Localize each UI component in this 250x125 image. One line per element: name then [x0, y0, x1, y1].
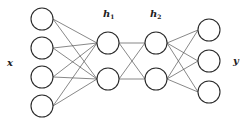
hidden-2-node	[145, 32, 167, 54]
hidden1-label-subscript: 1	[110, 13, 114, 20]
edge	[53, 43, 97, 77]
edge	[53, 19, 97, 79]
edge	[167, 79, 198, 92]
input-node	[31, 95, 53, 117]
edge	[53, 43, 97, 48]
output-node	[198, 50, 220, 72]
input-node	[31, 8, 53, 30]
network-graph	[0, 0, 250, 125]
hidden-1-node	[97, 68, 119, 90]
output-node	[198, 81, 220, 103]
edge	[167, 30, 198, 43]
input-node	[31, 37, 53, 59]
edge	[167, 43, 198, 92]
hidden-layer-1-label: h1	[103, 9, 114, 22]
output-node	[198, 19, 220, 41]
edge	[53, 79, 97, 106]
output-label-text: y	[233, 55, 239, 66]
nodes	[31, 8, 220, 117]
hidden-1-node	[97, 32, 119, 54]
hidden-2-node	[145, 68, 167, 90]
edge	[53, 77, 97, 79]
input-label-text: x	[7, 57, 13, 68]
hidden2-label-subscript: 2	[157, 13, 161, 20]
edge	[167, 43, 198, 61]
neural-network-diagram: x h1 h2 y	[0, 0, 250, 125]
edge	[167, 30, 198, 79]
hidden-layer-2-label: h2	[150, 9, 161, 22]
edge	[53, 19, 97, 43]
input-layer-label: x	[7, 58, 13, 68]
edges	[53, 19, 198, 106]
input-node	[31, 66, 53, 88]
edge	[167, 61, 198, 79]
output-layer-label: y	[233, 56, 239, 66]
